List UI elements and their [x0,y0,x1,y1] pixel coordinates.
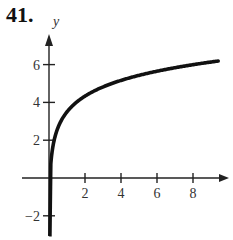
y-tick-label: 4 [33,95,40,110]
y-axis-arrow-icon [45,34,53,46]
chart: y 2468 −2246 [0,0,233,240]
y-tick-label: −2 [25,209,40,224]
axes: y [22,14,229,236]
function-curve [50,61,218,235]
x-tick-label: 8 [190,186,197,201]
x-axis-arrow-icon [219,174,229,182]
x-tick-label: 6 [154,186,161,201]
x-tick-label: 2 [82,186,89,201]
y-axis-label: y [51,14,60,29]
y-tick-label: 2 [33,133,40,148]
y-tick-label: 6 [33,58,40,73]
x-ticks: 2468 [82,173,197,201]
x-tick-label: 4 [118,186,125,201]
